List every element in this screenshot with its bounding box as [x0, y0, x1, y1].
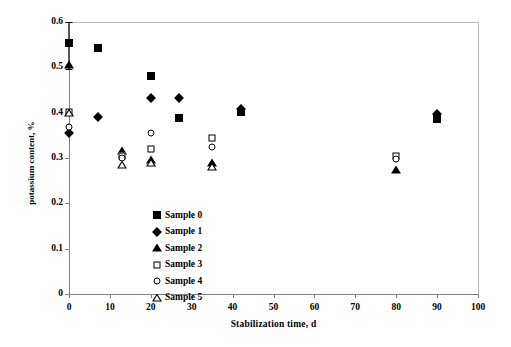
chart-figure: 00.10.20.30.40.50.6 01020304050607080901… [0, 0, 511, 347]
legend-label: Sample 0 [165, 211, 202, 221]
plot-right-border [478, 22, 479, 295]
data-point [175, 114, 183, 122]
data-point [209, 143, 216, 150]
legend-marker-icon [151, 225, 165, 239]
legend-item[interactable]: Sample 2 [151, 240, 251, 257]
y-tick-label: 0.5 [51, 63, 63, 73]
data-point [174, 93, 184, 103]
x-tick-mark [478, 294, 479, 298]
legend-marker-icon [151, 241, 165, 255]
x-tick-mark [274, 294, 275, 298]
y-tick-mark [65, 249, 69, 250]
x-tick-mark [314, 294, 315, 298]
x-tick-mark [437, 294, 438, 298]
y-tick-label: 0.6 [51, 17, 63, 27]
legend-item[interactable]: Sample 5 [151, 290, 251, 307]
data-point [147, 72, 155, 80]
data-point [93, 112, 103, 122]
data-point [147, 145, 154, 152]
plot-area: 00.10.20.30.40.50.6 01020304050607080901… [69, 22, 478, 294]
data-point [64, 108, 74, 116]
data-point [94, 44, 102, 52]
legend-label: Sample 3 [165, 260, 202, 270]
y-tick-label: 0.3 [51, 153, 63, 163]
y-tick-label: 0.2 [51, 199, 63, 209]
x-tick-label: 0 [67, 303, 72, 313]
x-tick-label: 50 [269, 303, 279, 313]
legend-marker-icon [151, 291, 165, 305]
legend-marker-icon [151, 208, 165, 222]
x-tick-mark [396, 294, 397, 298]
y-tick-label: 0.1 [51, 244, 63, 254]
data-point [146, 159, 156, 167]
x-tick-mark [110, 294, 111, 298]
legend-label: Sample 1 [165, 227, 202, 237]
x-tick-label: 90 [432, 303, 442, 313]
plot-top-border [69, 22, 479, 23]
y-axis-label: potassium content, % [26, 88, 36, 238]
error-bar-cap [66, 22, 73, 23]
y-tick-mark [65, 158, 69, 159]
legend-label: Sample 4 [165, 277, 202, 287]
error-bar-cap [66, 69, 73, 70]
x-tick-label: 100 [471, 303, 485, 313]
x-tick-label: 60 [310, 303, 320, 313]
legend-item[interactable]: Sample 4 [151, 273, 251, 290]
y-tick-mark [65, 203, 69, 204]
data-point [64, 61, 74, 69]
data-point [146, 93, 156, 103]
data-point [207, 163, 217, 171]
x-tick-mark [69, 294, 70, 298]
data-point [209, 134, 216, 141]
legend-label: Sample 2 [165, 244, 202, 254]
x-axis-label: Stabilization time, d [69, 319, 478, 329]
x-tick-label: 10 [105, 303, 115, 313]
x-tick-label: 70 [351, 303, 361, 313]
data-point [117, 160, 127, 168]
x-tick-label: 80 [391, 303, 401, 313]
legend-marker-icon [151, 274, 165, 288]
data-point [65, 39, 73, 47]
legend-item[interactable]: Sample 1 [151, 224, 251, 241]
data-point [391, 165, 401, 173]
x-tick-mark [355, 294, 356, 298]
y-tick-label: 0.4 [51, 108, 63, 118]
y-tick-label: 0 [58, 289, 63, 299]
legend-item[interactable]: Sample 0 [151, 207, 251, 224]
chart-legend: Sample 0Sample 1Sample 2Sample 3Sample 4… [151, 207, 251, 306]
legend-item[interactable]: Sample 3 [151, 257, 251, 274]
data-point [66, 124, 73, 131]
legend-marker-icon [151, 258, 165, 272]
data-point [147, 130, 154, 137]
legend-label: Sample 5 [165, 293, 202, 303]
data-point [393, 155, 400, 162]
